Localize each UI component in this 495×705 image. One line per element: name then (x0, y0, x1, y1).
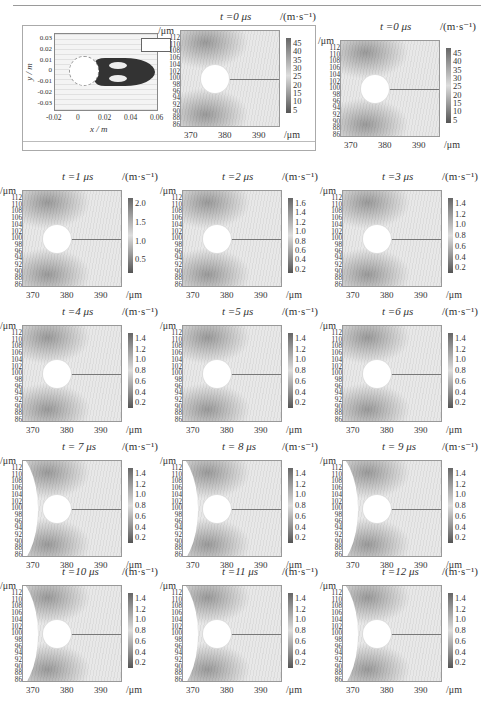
time-label: t =0 μs (220, 10, 251, 22)
x-axis-unit: /μm (444, 139, 460, 150)
velocity-field-panel: t =10 μs /(m·s⁻¹) /μm 112110108106104102… (0, 565, 160, 705)
x-axis-unit: /μm (126, 289, 142, 300)
velocity-contour-plot (182, 460, 282, 557)
y-axis-ticks: 11211010810610410210098969492908886 (6, 465, 22, 559)
colorbar-unit: /(m·s⁻¹) (122, 170, 158, 183)
velocity-contour-plot (342, 190, 442, 287)
velocity-contour-plot (180, 30, 280, 127)
velocity-contour-plot (342, 325, 442, 422)
wall-boundary (182, 585, 198, 682)
microjet-line (390, 239, 441, 240)
velocity-field-panel: t =6 μs /(m·s⁻¹) /μm 1121101081061041021… (320, 305, 480, 445)
colorbar-unit: /(m·s⁻¹) (440, 20, 476, 33)
time-label: t = 8 μs (222, 440, 256, 452)
wall-boundary (22, 585, 38, 682)
bubble-circle (203, 495, 231, 523)
colorbar (128, 468, 133, 543)
y-axis-ticks: 11211010810610410210098969492908886 (326, 330, 342, 424)
velocity-field-panel: t = 7 μs /(m·s⁻¹) /μm 112110108106104102… (0, 440, 160, 580)
time-label: t =10 μs (62, 565, 99, 577)
microjet-line (228, 79, 279, 80)
bubble-circle (363, 620, 391, 648)
microjet-line (230, 509, 281, 510)
bubble-circle (69, 56, 99, 86)
colorbar-ticks: 1.41.21.00.80.60.40.2 (135, 333, 159, 408)
x-axis-unit: /μm (446, 289, 462, 300)
colorbar-ticks: 45403530252015105 (293, 38, 317, 113)
colorbar-unit: /(m·s⁻¹) (122, 440, 158, 453)
y-axis-ticks: 11211010810610410210098969492908886 (326, 195, 342, 289)
colorbar-ticks: 1.41.21.00.80.60.40.2 (295, 333, 319, 408)
x-axis-unit: /μm (126, 684, 142, 695)
velocity-contour-plot (22, 325, 122, 422)
velocity-field-panel: t =3 μs /(m·s⁻¹) /μm 1121101081061041021… (320, 170, 480, 310)
colorbar-unit: /(m·s⁻¹) (442, 170, 478, 183)
x-axis-unit: /μm (284, 129, 300, 140)
bubble-circle (363, 495, 391, 523)
inset-plot-area (54, 33, 158, 111)
microjet-line (230, 634, 281, 635)
microjet-line (70, 374, 121, 375)
macroscale-inset-chart: y / m 0.030.020.010-0.01-0.02-0.03 -0.02… (24, 27, 164, 139)
wall-boundary (182, 460, 198, 557)
colorbar-ticks: 1.41.21.00.80.60.40.2 (455, 198, 479, 273)
bubble-circle (201, 65, 229, 93)
bubble-circle (43, 360, 71, 388)
microjet-line (390, 509, 441, 510)
bubble-circle (43, 225, 71, 253)
colorbar-unit: /(m·s⁻¹) (442, 305, 478, 318)
wake-region (95, 58, 155, 86)
colorbar-ticks: 45403530252015105 (453, 48, 477, 123)
velocity-contour-plot (22, 585, 122, 682)
velocity-field-panel: t =11 μs /(m·s⁻¹) /μm 112110108106104102… (160, 565, 320, 705)
velocity-field-panel: t =2 μs /(m·s⁻¹) /μm 1121101081061041021… (160, 170, 320, 310)
bubble-circle (203, 360, 231, 388)
velocity-contour-plot (182, 585, 282, 682)
x-axis-unit: /μm (286, 289, 302, 300)
y-axis-ticks: 11211010810610410210098969492908886 (166, 465, 182, 559)
inset-x-label: x / m (90, 124, 108, 134)
velocity-field-panel: t = 8 μs /(m·s⁻¹) /μm 112110108106104102… (160, 440, 320, 580)
inset-y-ticks: 0.030.020.010-0.01-0.02-0.03 (24, 33, 52, 109)
colorbar-ticks: 1.41.21.00.80.60.40.2 (135, 468, 159, 543)
time-label: t =6 μs (382, 305, 413, 317)
time-label: t =1 μs (62, 170, 93, 182)
bubble-circle (203, 225, 231, 253)
time-label: t =4 μs (62, 305, 93, 317)
velocity-field-panel: t =12 μs /(m·s⁻¹) /μm 112110108106104102… (320, 565, 480, 705)
microjet-line (390, 374, 441, 375)
bubble-circle (363, 225, 391, 253)
velocity-contour-plot (182, 325, 282, 422)
time-label: t = 9 μs (382, 440, 416, 452)
velocity-contour-plot (22, 460, 122, 557)
colorbar-ticks: 1.41.21.00.80.60.40.2 (455, 333, 479, 408)
colorbar-ticks: 2.01.51.00.5 (135, 198, 159, 273)
x-axis-unit: /μm (446, 424, 462, 435)
colorbar-ticks: 1.41.21.00.80.60.40.2 (135, 593, 159, 668)
microjet-line (388, 89, 439, 90)
time-label: t =11 μs (222, 565, 258, 577)
velocity-contour-plot (342, 585, 442, 682)
page-top-rule (13, 5, 481, 6)
colorbar (446, 48, 451, 123)
wall-boundary (342, 460, 358, 557)
y-axis-ticks: 11211010810610410210098969492908886 (324, 45, 340, 139)
x-axis-unit: /μm (446, 684, 462, 695)
colorbar-ticks: 1.41.21.00.80.60.40.2 (455, 593, 479, 668)
velocity-contour-plot (22, 190, 122, 287)
time-label: t =5 μs (222, 305, 253, 317)
colorbar (288, 198, 293, 273)
time-label: t =2 μs (222, 170, 253, 182)
y-axis-ticks: 11211010810610410210098969492908886 (6, 590, 22, 684)
x-axis-unit: /μm (286, 684, 302, 695)
colorbar (128, 333, 133, 408)
colorbar-unit: /(m·s⁻¹) (122, 565, 158, 578)
colorbar-ticks: 1.41.21.00.80.60.40.2 (295, 468, 319, 543)
colorbar (448, 333, 453, 408)
bubble-circle (43, 495, 71, 523)
x-axis-unit: /μm (126, 424, 142, 435)
colorbar (448, 593, 453, 668)
y-axis-ticks: 11211010810610410210098969492908886 (166, 330, 182, 424)
colorbar-unit: /(m·s⁻¹) (442, 565, 478, 578)
colorbar (448, 468, 453, 543)
